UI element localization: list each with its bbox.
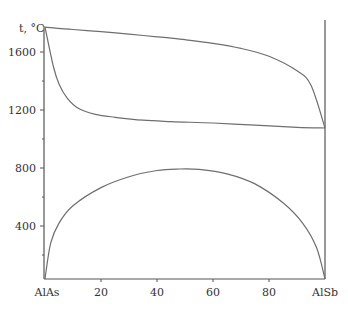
x-end-label-right: AlSb bbox=[311, 286, 338, 299]
x-end-label-left: AlAs bbox=[33, 286, 59, 299]
phase-diagram-chart: t, °C 1600 1200 800 400 AlAs 20 40 60 80… bbox=[0, 0, 348, 312]
x-tick-label: 40 bbox=[150, 286, 164, 299]
y-tick-label: 800 bbox=[15, 162, 36, 175]
liquidus-curve bbox=[45, 27, 325, 128]
y-tick-label: 1600 bbox=[8, 46, 36, 59]
miscibility-gap-curve bbox=[45, 169, 325, 279]
y-axis-title: t, °C bbox=[19, 22, 44, 35]
y-tick-label: 400 bbox=[15, 220, 36, 233]
x-tick-label: 80 bbox=[262, 286, 276, 299]
solidus-curve bbox=[45, 27, 325, 128]
x-tick-label: 20 bbox=[94, 286, 108, 299]
x-tick-label: 60 bbox=[206, 286, 220, 299]
y-tick-label: 1200 bbox=[8, 104, 36, 117]
